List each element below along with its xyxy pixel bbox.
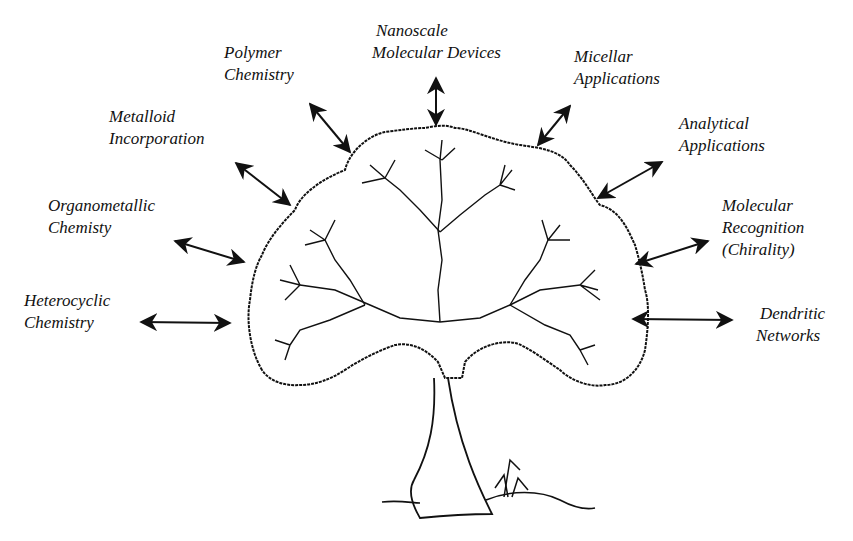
label-line: Organometallic bbox=[48, 195, 155, 217]
label-line: (Chirality) bbox=[722, 239, 804, 261]
label-line: Micellar bbox=[574, 46, 660, 68]
label-line: Nanoscale bbox=[372, 20, 501, 42]
arrow-micellar-icon bbox=[538, 106, 570, 145]
arrow-dendritic-icon bbox=[633, 319, 732, 320]
label-dendritic-networks: Dendritic Networks bbox=[756, 303, 825, 347]
label-line: Applications bbox=[679, 135, 765, 157]
label-line: Dendritic bbox=[756, 303, 825, 325]
grass-tuft-icon bbox=[495, 460, 528, 497]
label-line: Chemistry bbox=[24, 312, 110, 334]
label-line: Heterocyclic bbox=[24, 290, 110, 312]
label-line: Applications bbox=[574, 68, 660, 90]
label-line: Molecular bbox=[722, 195, 804, 217]
label-line: Chemistry bbox=[224, 64, 294, 86]
arrow-molecular-recognition-icon bbox=[636, 241, 708, 264]
label-line: Networks bbox=[756, 325, 825, 347]
tree-trunk bbox=[411, 378, 492, 518]
tree-branches bbox=[275, 140, 600, 365]
label-line: Metalloid bbox=[109, 106, 204, 128]
arrow-heterocyclic-icon bbox=[141, 322, 230, 323]
label-metalloid-incorporation: Metalloid Incorporation bbox=[109, 106, 204, 150]
label-organometallic-chemisty: Organometallic Chemisty bbox=[48, 195, 155, 239]
label-line: Analytical bbox=[679, 113, 765, 135]
label-line: Chemisty bbox=[48, 217, 155, 239]
label-polymer-chemistry: Polymer Chemistry bbox=[224, 42, 294, 86]
arrows bbox=[141, 78, 732, 323]
label-nanoscale-molecular-devices: Nanoscale Molecular Devices bbox=[372, 20, 501, 64]
label-line: Polymer bbox=[224, 42, 294, 64]
label-analytical-applications: Analytical Applications bbox=[679, 113, 765, 157]
label-heterocyclic-chemistry: Heterocyclic Chemistry bbox=[24, 290, 110, 334]
tree-drawing bbox=[0, 0, 853, 541]
label-line: Incorporation bbox=[109, 128, 204, 150]
arrow-metalloid-icon bbox=[236, 163, 290, 205]
label-line: Molecular Devices bbox=[372, 42, 501, 64]
arrow-organometallic-icon bbox=[175, 241, 244, 262]
label-micellar-applications: Micellar Applications bbox=[574, 46, 660, 90]
arrow-analytical-icon bbox=[598, 162, 662, 198]
arrow-polymer-icon bbox=[310, 104, 350, 152]
label-molecular-recognition: Molecular Recognition (Chirality) bbox=[722, 195, 804, 261]
label-line: Recognition bbox=[722, 217, 804, 239]
dendrimer-tree-diagram: Nanoscale Molecular Devices Polymer Chem… bbox=[0, 0, 853, 541]
